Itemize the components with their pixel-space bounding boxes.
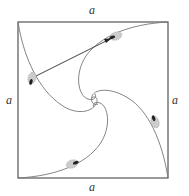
side-label-top: a: [89, 4, 95, 16]
bug-right-icon: [149, 114, 161, 129]
pursuit-curve-top-right: [79, 22, 168, 100]
pursuit-curve-bottom-left: [18, 102, 108, 178]
side-label-bottom: a: [89, 181, 95, 193]
pursuit-curve-bottom-right: [91, 90, 168, 178]
side-label-right: a: [172, 94, 178, 106]
bug-left-icon: [26, 71, 37, 86]
pursuit-diagram: a a a a: [0, 0, 189, 196]
side-label-left: a: [6, 94, 12, 106]
pursuit-connector-line: [32, 39, 110, 78]
diagram-canvas: [0, 0, 189, 196]
square-outline: [18, 22, 168, 178]
